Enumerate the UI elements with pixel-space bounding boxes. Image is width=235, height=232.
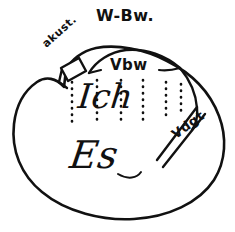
freud-structural-model-figure: W-Bw. akust. Vbw Vdgt Ich Es (0, 0, 235, 232)
label-w-bw: W-Bw. (96, 8, 154, 24)
label-es: Es (68, 136, 121, 174)
label-vbw: Vbw (110, 58, 148, 73)
label-ich: Ich (76, 79, 134, 113)
